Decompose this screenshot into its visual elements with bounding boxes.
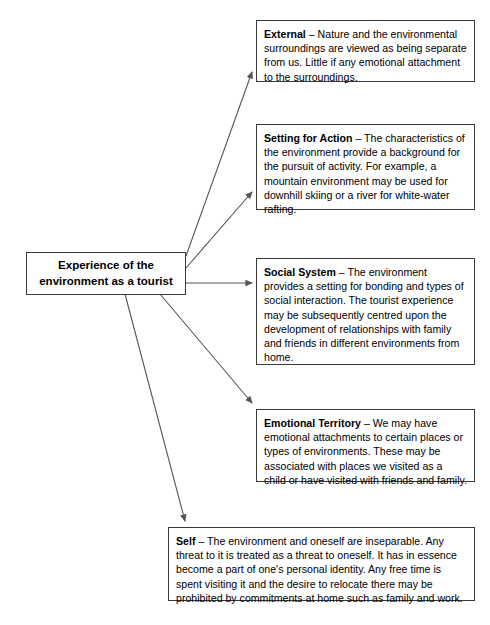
node-setting-for-action-separator: – [352, 132, 364, 144]
central-node-label: Experience of the environment as a touri… [39, 258, 173, 289]
diagram-canvas: Experience of the environment as a touri… [0, 0, 490, 625]
node-emotional-territory-term: Emotional Territory [264, 417, 361, 429]
node-social-system-body: The environment provides a setting for b… [264, 266, 464, 363]
node-setting-for-action[interactable]: Setting for Action – The characteristics… [256, 124, 475, 210]
node-self-body: The environment and oneself are insepara… [176, 535, 463, 604]
node-self-term: Self [176, 535, 195, 547]
connector-to-external [186, 72, 252, 256]
node-self-separator: – [195, 535, 207, 547]
central-node-line2: environment as a tourist [39, 275, 173, 287]
central-node-experience-of-the-environment[interactable]: Experience of the environment as a touri… [26, 252, 186, 295]
node-social-system-term: Social System [264, 266, 336, 278]
node-external[interactable]: External – Nature and the environmental … [256, 20, 475, 82]
node-external-separator: – [306, 28, 318, 40]
node-self[interactable]: Self – The environment and oneself are i… [168, 527, 475, 601]
connector-to-self [125, 294, 185, 521]
node-social-system[interactable]: Social System – The environment provides… [256, 258, 475, 365]
connector-to-emotional-territory [160, 294, 252, 403]
connector-to-setting-for-action [186, 192, 252, 268]
node-external-term: External [264, 28, 306, 40]
node-setting-for-action-body: The characteristics of the environment p… [264, 132, 465, 215]
central-node-line1: Experience of the [58, 259, 154, 271]
node-emotional-territory[interactable]: Emotional Territory – We may have emotio… [256, 409, 475, 482]
node-emotional-territory-separator: – [361, 417, 373, 429]
node-setting-for-action-term: Setting for Action [264, 132, 352, 144]
node-social-system-separator: – [336, 266, 348, 278]
